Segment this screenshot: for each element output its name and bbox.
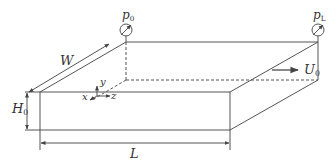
channel-drawing bbox=[0, 0, 336, 164]
inlet-pressure-label: p0 bbox=[122, 9, 134, 22]
width-label: W bbox=[60, 54, 73, 67]
axis-y-label: y bbox=[100, 77, 106, 87]
length-label: L bbox=[130, 147, 139, 160]
height-label: H0 bbox=[12, 102, 28, 117]
axis-z-label: z bbox=[111, 91, 116, 101]
axis-x-label: x bbox=[82, 92, 88, 102]
outlet-pressure-label: pL bbox=[313, 9, 325, 22]
velocity-label: U0 bbox=[304, 63, 320, 78]
front-face bbox=[40, 92, 230, 130]
channel-diagram: W H0 L p0 pL U0 y x z bbox=[0, 0, 336, 164]
